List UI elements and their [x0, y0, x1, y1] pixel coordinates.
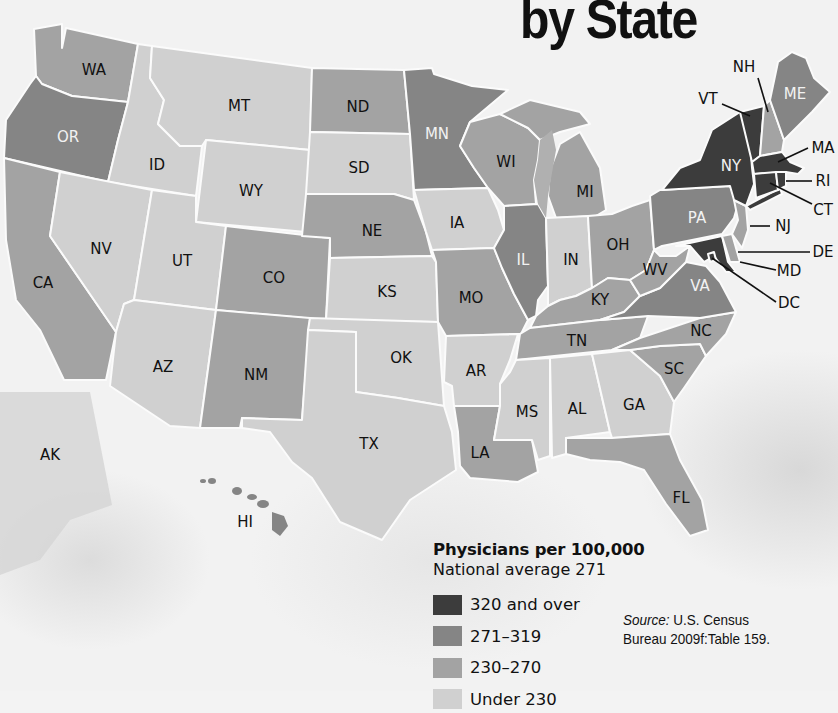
legend-items: 320 and over 271–319 230–270 Under 230 — [433, 589, 645, 713]
label-WI: WI — [496, 153, 515, 171]
legend-item: 320 and over — [433, 589, 645, 621]
legend-item: Under 230 — [433, 684, 645, 713]
label-MN: MN — [425, 125, 449, 143]
label-AZ: AZ — [153, 358, 174, 376]
label-NC: NC — [690, 322, 712, 340]
legend-subtitle: National average 271 — [433, 560, 645, 579]
label-KS: KS — [377, 283, 396, 301]
label-LA: LA — [471, 444, 491, 462]
label-NJ: NJ — [775, 217, 791, 235]
label-RI: RI — [816, 172, 831, 190]
label-TN: TN — [566, 332, 587, 350]
legend-label: 271–319 — [470, 627, 541, 646]
source-prefix: Source: — [623, 611, 670, 628]
label-TX: TX — [358, 435, 378, 453]
label-MD: MD — [777, 262, 802, 280]
legend-label: 320 and over — [470, 595, 580, 614]
label-MI: MI — [576, 183, 593, 201]
legend-item: 271–319 — [433, 621, 645, 653]
label-NE: NE — [362, 222, 383, 240]
label-WV: WV — [642, 261, 668, 279]
map-legend: Physicians per 100,000 National average … — [433, 540, 645, 713]
label-WA: WA — [82, 61, 107, 79]
label-IL: IL — [517, 251, 530, 269]
state-AK[interactable] — [0, 392, 112, 575]
label-UT: UT — [172, 252, 193, 270]
legend-swatch — [433, 689, 462, 709]
label-SC: SC — [664, 360, 684, 378]
label-OR: OR — [57, 128, 79, 146]
label-SD: SD — [348, 159, 369, 177]
legend-title: Physicians per 100,000 — [433, 540, 645, 559]
label-HI: HI — [237, 513, 253, 531]
leader-line-md — [740, 262, 776, 270]
label-NH: NH — [733, 58, 756, 76]
label-PA: PA — [688, 209, 707, 227]
state-FL[interactable] — [566, 434, 708, 536]
label-NY: NY — [721, 157, 742, 175]
label-ID: ID — [149, 156, 165, 174]
legend-label: Under 230 — [470, 690, 557, 709]
legend-item: 230–270 — [433, 652, 645, 684]
label-AK: AK — [40, 446, 61, 464]
label-MT: MT — [228, 97, 251, 115]
legend-label: 230–270 — [470, 658, 541, 677]
legend-swatch — [433, 626, 462, 646]
label-WY: WY — [239, 182, 264, 200]
source-note: Source: U.S. Census Bureau 2009f:Table 1… — [623, 610, 770, 648]
label-AR: AR — [466, 362, 487, 380]
label-NM: NM — [244, 366, 268, 384]
label-IA: IA — [450, 214, 465, 232]
label-DE: DE — [812, 243, 833, 261]
label-VA: VA — [690, 277, 710, 295]
legend-swatch — [433, 595, 462, 615]
label-KY: KY — [591, 291, 610, 309]
source-line2: Bureau 2009f:Table 159. — [623, 629, 770, 648]
label-FL: FL — [673, 489, 691, 507]
legend-swatch — [433, 658, 462, 678]
label-GA: GA — [623, 396, 646, 414]
label-MS: MS — [516, 403, 538, 421]
label-ND: ND — [347, 98, 370, 116]
label-IN: IN — [563, 251, 579, 269]
label-MO: MO — [459, 289, 484, 307]
label-AL: AL — [568, 400, 587, 418]
label-VT: VT — [698, 90, 718, 108]
state-MA[interactable] — [752, 152, 804, 174]
label-ME: ME — [784, 85, 806, 103]
source-line1: U.S. Census — [670, 611, 750, 628]
label-DC: DC — [778, 294, 800, 312]
label-MA: MA — [811, 139, 835, 157]
label-CA: CA — [33, 274, 54, 292]
label-OK: OK — [390, 349, 413, 367]
label-NV: NV — [90, 240, 112, 258]
label-CT: CT — [813, 201, 833, 219]
label-OH: OH — [606, 236, 629, 254]
label-CO: CO — [263, 269, 285, 287]
